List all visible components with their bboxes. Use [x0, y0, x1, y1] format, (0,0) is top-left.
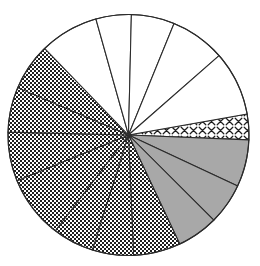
pie-slices-group [8, 14, 249, 255]
pie-chart-svg [0, 0, 260, 266]
pie-chart-figure [0, 0, 260, 266]
